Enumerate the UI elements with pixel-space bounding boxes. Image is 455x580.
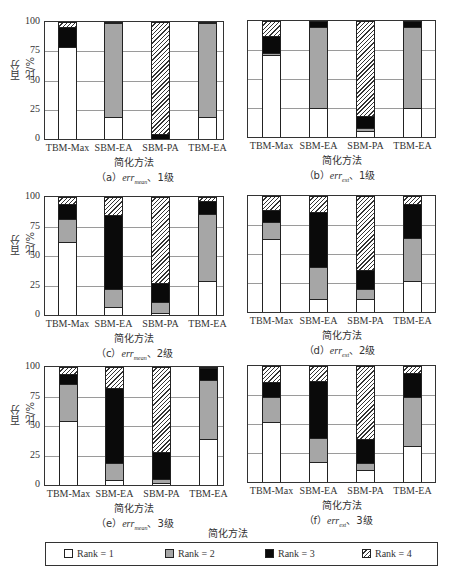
bar-segment-rank-1 xyxy=(404,281,421,312)
x-tick-label: SBM-PA xyxy=(136,142,186,153)
bar-segment-rank-4 xyxy=(153,367,170,452)
y-axis-label: 百分比/% xyxy=(8,402,38,425)
bar-sbm-pa xyxy=(356,21,375,137)
bar-segment-rank-1 xyxy=(59,242,76,315)
plot-area xyxy=(44,21,224,140)
y-tick-label: 0 xyxy=(18,133,40,143)
bar-tbm-max xyxy=(59,367,78,485)
x-tick-label: TBM-Max xyxy=(247,485,297,496)
bar-segment-rank-1 xyxy=(263,55,280,137)
x-axis-label: 简化方法 xyxy=(247,497,436,512)
x-tick-label: SBM-EA xyxy=(294,140,344,151)
bar-segment-rank-3 xyxy=(263,210,280,222)
bar-segment-rank-2 xyxy=(105,289,122,307)
bar-tbm-max xyxy=(262,21,281,137)
bar-segment-rank-3 xyxy=(152,134,169,139)
rank-3-swatch-icon xyxy=(265,549,274,558)
bar-segment-rank-1 xyxy=(199,117,216,139)
bar-segment-rank-4 xyxy=(404,196,421,204)
bar-segment-rank-1 xyxy=(357,299,374,312)
bar-segment-rank-3 xyxy=(199,201,216,214)
bar-segment-rank-1 xyxy=(263,239,280,312)
x-tick-label: SBM-EA xyxy=(89,142,139,153)
legend-label: Rank = 1 xyxy=(77,548,114,559)
bar-segment-rank-1 xyxy=(404,446,421,482)
x-tick-label: SBM-PA xyxy=(136,318,186,329)
bar-segment-rank-2 xyxy=(200,380,217,439)
y-axis-label: 百分比/% xyxy=(8,57,38,80)
bar-segment-rank-2 xyxy=(263,397,280,421)
bar-segment-rank-2 xyxy=(310,267,327,299)
y-tick-label: 0 xyxy=(18,309,40,319)
bar-segment-rank-3 xyxy=(310,21,327,27)
bar-segment-rank-1 xyxy=(357,131,374,137)
x-tick-label: TBM-EA xyxy=(388,140,438,151)
bar-segment-rank-3 xyxy=(404,21,421,27)
legend-label: Rank = 2 xyxy=(178,548,215,559)
x-tick-label: TBM-Max xyxy=(43,142,93,153)
bar-segment-rank-1 xyxy=(263,422,280,482)
plot-area xyxy=(247,20,436,138)
bar-tbm-ea xyxy=(199,367,218,485)
plot-area xyxy=(247,195,436,313)
bar-sbm-ea xyxy=(309,21,328,137)
bar-segment-rank-1 xyxy=(105,307,122,315)
bar-segment-rank-2 xyxy=(357,128,374,131)
bar-segment-rank-3 xyxy=(59,204,76,219)
bar-segment-rank-1 xyxy=(310,299,327,312)
bar-segment-rank-1 xyxy=(153,483,170,485)
bar-tbm-ea xyxy=(198,197,217,315)
bar-segment-rank-2 xyxy=(357,463,374,470)
legend: Rank = 1 Rank = 2 Rank = 3 Rank = 4 xyxy=(45,542,438,566)
bar-segment-rank-2 xyxy=(199,214,216,281)
bar-sbm-ea xyxy=(104,22,123,139)
bar-segment-rank-2 xyxy=(404,397,421,446)
bar-segment-rank-4 xyxy=(263,21,280,36)
bar-sbm-ea xyxy=(309,366,328,482)
panel-caption-b: （b）errext、1级 xyxy=(304,167,376,183)
x-tick-label: SBM-PA xyxy=(137,488,187,499)
y-tick-label: 75 xyxy=(18,221,40,231)
bar-segment-rank-1 xyxy=(60,421,77,485)
bar-segment-rank-3 xyxy=(357,439,374,463)
bar-segment-rank-2 xyxy=(263,222,280,239)
bar-tbm-ea xyxy=(198,22,217,139)
bar-segment-rank-2 xyxy=(263,53,280,54)
x-tick-label: SBM-EA xyxy=(294,485,344,496)
x-tick-label: TBM-EA xyxy=(388,315,438,326)
panel-caption-c: （c）errmean、2级 xyxy=(96,345,173,361)
bar-segment-rank-1 xyxy=(152,313,169,315)
bar-segment-rank-2 xyxy=(199,23,216,117)
bar-sbm-pa xyxy=(151,197,170,315)
x-tick-label: TBM-Max xyxy=(247,315,297,326)
bar-segment-rank-3 xyxy=(106,388,123,462)
bar-segment-rank-3 xyxy=(263,382,280,397)
bar-segment-rank-4 xyxy=(404,366,421,373)
bar-segment-rank-4 xyxy=(152,197,169,283)
bar-segment-rank-2 xyxy=(404,238,421,281)
bar-segment-rank-4 xyxy=(357,196,374,270)
plot-area xyxy=(44,366,224,486)
bar-segment-rank-2 xyxy=(106,463,123,481)
plot-area xyxy=(44,196,224,316)
bar-sbm-pa xyxy=(356,366,375,482)
bar-sbm-pa xyxy=(152,367,171,485)
bar-segment-rank-2 xyxy=(310,438,327,462)
bar-tbm-max xyxy=(58,197,77,315)
bar-segment-rank-4 xyxy=(200,367,217,368)
bar-sbm-pa xyxy=(151,22,170,139)
legend-item-rank-2: Rank = 2 xyxy=(165,548,215,559)
panel-caption-a: （a）errmean、1级 xyxy=(96,169,174,185)
y-tick-label: 100 xyxy=(18,191,40,201)
bar-segment-rank-2 xyxy=(59,219,76,241)
x-axis-label: 简化方法 xyxy=(247,327,436,342)
bar-sbm-pa xyxy=(356,196,375,312)
y-tick-label: 0 xyxy=(18,479,40,489)
bar-segment-rank-4 xyxy=(59,22,76,27)
bar-segment-rank-4 xyxy=(263,366,280,382)
bar-segment-rank-4 xyxy=(310,366,327,381)
x-tick-label: SBM-PA xyxy=(341,315,391,326)
bar-segment-rank-4 xyxy=(357,21,374,116)
bar-segment-rank-4 xyxy=(263,196,280,210)
shared-x-axis-label: 简化方法 xyxy=(0,525,455,540)
